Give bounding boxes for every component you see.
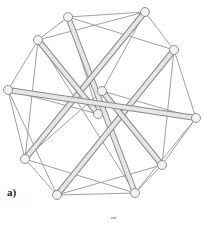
node-joint (94, 110, 103, 119)
cropped-glyph (111, 217, 116, 219)
node-joint (131, 189, 140, 198)
node-joint (158, 161, 167, 170)
node-joint (98, 87, 107, 96)
figure-label: a) (7, 186, 16, 198)
node-joint (34, 36, 43, 45)
cable-edge (174, 50, 196, 118)
cable-edge (57, 193, 135, 195)
cable-edge (8, 90, 57, 195)
cable-edge (8, 90, 25, 159)
tensegrity-diagram (0, 0, 204, 225)
node-joint (53, 191, 62, 200)
node-joint (64, 13, 73, 22)
rod-strut-fill (25, 12, 145, 159)
node-joint (170, 46, 179, 55)
node-joint (192, 114, 201, 123)
node-joint (21, 155, 30, 164)
node-joint (4, 86, 13, 95)
cable-edge (68, 12, 145, 17)
cable-edge (145, 12, 174, 50)
node-joint (141, 8, 150, 17)
rod-strut-fill (57, 50, 174, 195)
